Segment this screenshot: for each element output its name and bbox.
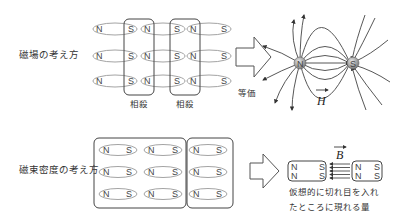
svg-text:N: N bbox=[148, 145, 155, 155]
svg-text:N: N bbox=[148, 167, 155, 177]
svg-text:S: S bbox=[374, 171, 380, 181]
svg-text:N: N bbox=[96, 76, 103, 86]
svg-text:S: S bbox=[172, 189, 178, 199]
svg-text:N: N bbox=[190, 51, 197, 61]
svg-text:S: S bbox=[174, 51, 180, 61]
field-lines bbox=[263, 15, 390, 110]
svg-text:S: S bbox=[128, 24, 134, 34]
svg-text:N: N bbox=[291, 171, 298, 181]
svg-text:S: S bbox=[126, 145, 132, 155]
svg-text:N: N bbox=[144, 51, 151, 61]
magnetic-field-label: 磁場の考え方 bbox=[19, 49, 79, 60]
svg-text:S: S bbox=[128, 76, 134, 86]
magnetism-diagram: 磁場の考え方 N S N S N S N S N S N S N S N S N… bbox=[0, 0, 404, 223]
equivalent-label: 等価 bbox=[238, 88, 256, 98]
top-magnet-grid bbox=[93, 23, 231, 87]
svg-text:N: N bbox=[193, 189, 200, 199]
flux-lines bbox=[330, 164, 350, 178]
svg-text:N: N bbox=[103, 145, 110, 155]
caption-line-2: たところに現れる量 bbox=[289, 202, 370, 212]
svg-text:N: N bbox=[96, 24, 103, 34]
svg-text:S: S bbox=[221, 51, 227, 61]
svg-text:S: S bbox=[174, 76, 180, 86]
svg-text:S: S bbox=[221, 76, 227, 86]
svg-text:S: S bbox=[172, 145, 178, 155]
bottom-magnet-grid bbox=[99, 145, 227, 200]
svg-text:S: S bbox=[126, 167, 132, 177]
caption-line-1: 仮想的に切れ目を入れ bbox=[289, 187, 379, 197]
result-arrow-icon bbox=[250, 154, 279, 188]
svg-text:N: N bbox=[355, 171, 362, 181]
svg-text:S: S bbox=[172, 167, 178, 177]
svg-text:N: N bbox=[190, 76, 197, 86]
north-charge-label: N bbox=[297, 59, 304, 69]
svg-text:N: N bbox=[190, 24, 197, 34]
svg-text:N: N bbox=[193, 167, 200, 177]
svg-text:N: N bbox=[144, 76, 151, 86]
svg-text:S: S bbox=[174, 24, 180, 34]
cancel-label-1: 相殺 bbox=[130, 99, 148, 109]
svg-text:N: N bbox=[148, 189, 155, 199]
svg-text:S: S bbox=[216, 189, 222, 199]
bottom-magnet-poles: N S N S N S N S N S N S N S N S N S bbox=[103, 145, 222, 199]
svg-text:N: N bbox=[96, 51, 103, 61]
svg-text:S: S bbox=[216, 167, 222, 177]
cancel-label-2: 相殺 bbox=[176, 99, 194, 109]
flux-density-label: 磁束密度の考え方 bbox=[19, 164, 99, 175]
south-charge-label: S bbox=[350, 59, 356, 69]
svg-text:S: S bbox=[126, 189, 132, 199]
svg-text:S: S bbox=[216, 145, 222, 155]
svg-text:S: S bbox=[128, 51, 134, 61]
equivalent-arrow-icon bbox=[236, 37, 271, 77]
svg-text:S: S bbox=[221, 24, 227, 34]
top-magnet-poles: N S N S N S N S N S N S N S N S N S bbox=[96, 24, 227, 86]
svg-text:N: N bbox=[103, 167, 110, 177]
svg-text:S: S bbox=[319, 171, 325, 181]
svg-text:N: N bbox=[103, 189, 110, 199]
svg-text:N: N bbox=[193, 145, 200, 155]
b-vector-label: B bbox=[336, 148, 344, 162]
h-vector-label: H bbox=[316, 94, 327, 108]
svg-text:N: N bbox=[144, 24, 151, 34]
